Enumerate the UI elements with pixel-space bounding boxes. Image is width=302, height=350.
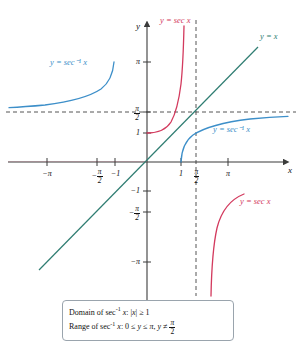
- fraction-denominator: 2: [134, 214, 140, 222]
- y-tick-label-1-text: 1: [136, 128, 140, 137]
- sec-curve-upper-branch: [147, 26, 184, 133]
- sec-curve-lower-branch: [211, 194, 244, 296]
- y-tick-label--pi: −π: [120, 258, 140, 266]
- x-tick-label--pi: −π: [38, 170, 56, 178]
- x-axis-label: x: [288, 166, 292, 175]
- x-tick-label--1: −1: [107, 170, 124, 178]
- caption-domain-prefix: Domain of sec: [69, 308, 116, 317]
- fraction-pi-over-2: π2: [97, 168, 103, 185]
- curve-label-sec-top: y = sec x: [160, 16, 191, 25]
- fraction-denominator: 2: [97, 177, 103, 185]
- y-tick-label-pi: π: [126, 58, 140, 66]
- y-tick-label--1: −1: [120, 187, 140, 195]
- curve-label-sec-bottom: y = sec x: [240, 197, 271, 206]
- fraction-pi-over-2: π2: [134, 205, 140, 222]
- x-tick-label-pi-over-2: π2: [189, 168, 204, 185]
- x-tick-label-pi-text: π: [226, 169, 230, 178]
- fraction-pi-over-2: π2: [169, 319, 175, 336]
- x-tick-label-1-text: 1: [179, 169, 183, 178]
- x-tick-label--1-text: −1: [111, 169, 120, 178]
- y-tick-label--pi-over-2: −π2: [118, 205, 140, 222]
- curve-label-arcsec-left: y = sec⁻¹ x: [50, 58, 87, 67]
- caption-range-prefix: Range of sec: [69, 322, 110, 331]
- fraction-denominator: 2: [169, 328, 175, 336]
- caption-line-range: Range of sec-1 x: 0 ≤ y ≤ π, y ≠ π2: [69, 319, 227, 336]
- y-tick-label--pi-text: −π: [131, 257, 140, 266]
- y-tick-label-pi-text: π: [136, 57, 140, 66]
- caption-box: Domain of sec-1 x: |x| ≥ 1 Range of sec-…: [62, 300, 234, 341]
- x-tick-label--pi-text: −π: [42, 169, 51, 178]
- y-axis-label: y: [136, 22, 140, 31]
- y-tick-label--1-text: −1: [131, 186, 140, 195]
- fraction-pi-over-2: π2: [134, 105, 140, 122]
- identity-line-y-equals-x: [39, 47, 258, 270]
- curve-label-identity: y = x: [260, 32, 278, 41]
- arcsec-curve-left-branch: [9, 62, 114, 108]
- fraction-pi-over-2: π2: [194, 168, 200, 185]
- figure-root: y x −π −π2 −1 1 π2 π π π2 1 −1 −π2 −π y …: [0, 0, 302, 350]
- y-tick-label-1: 1: [126, 129, 140, 137]
- caption-domain-rest: x: |x| ≥ 1: [121, 308, 150, 317]
- x-tick-label--pi-over-2: −π2: [86, 168, 108, 185]
- x-tick-label-1: 1: [174, 170, 188, 178]
- curve-label-arcsec-right: y = sec⁻¹ x: [213, 125, 250, 134]
- fraction-denominator: 2: [194, 177, 200, 185]
- caption-range-rest: x: 0 ≤ y ≤ π, y ≠: [115, 322, 169, 331]
- y-tick-label-pi-over-2: π2: [125, 105, 140, 122]
- caption-line-domain: Domain of sec-1 x: |x| ≥ 1: [69, 305, 227, 319]
- fraction-denominator: 2: [134, 114, 140, 122]
- x-tick-label-pi: π: [221, 170, 235, 178]
